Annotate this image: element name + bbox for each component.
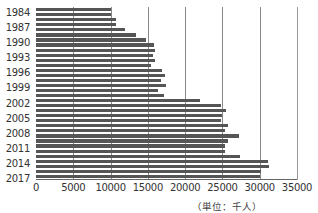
bar-2009 xyxy=(36,134,239,137)
bar-1984 xyxy=(36,8,111,11)
y-tick-2014: 2014 xyxy=(0,159,30,169)
bar-1998 xyxy=(36,79,161,82)
bar-2006 xyxy=(36,119,221,122)
bar-2016 xyxy=(36,170,261,173)
gridline-30000 xyxy=(260,7,261,180)
bar-2015 xyxy=(36,165,269,168)
bar-2000 xyxy=(36,89,158,92)
bar-2008 xyxy=(36,129,225,132)
bar-1993 xyxy=(36,54,153,57)
bar-1992 xyxy=(36,49,155,52)
x-axis-line xyxy=(36,179,297,180)
bar-1989 xyxy=(36,33,136,36)
x-tick-20000: 20000 xyxy=(170,183,200,193)
bar-2011 xyxy=(36,144,225,147)
bar-1985 xyxy=(36,13,111,16)
x-tick-0: 0 xyxy=(33,183,39,193)
bar-2010 xyxy=(36,139,228,142)
bar-2012 xyxy=(36,150,225,153)
x-tick-5000: 5000 xyxy=(61,183,85,193)
bar-2017 xyxy=(36,175,260,178)
bar-1987 xyxy=(36,23,116,26)
y-tick-2005: 2005 xyxy=(0,114,30,124)
bar-2004 xyxy=(36,109,226,112)
bar-2013 xyxy=(36,155,240,158)
bar-2005 xyxy=(36,114,222,117)
bar-2002 xyxy=(36,99,200,102)
bar-1991 xyxy=(36,43,154,46)
bar-2007 xyxy=(36,124,228,127)
y-tick-1987: 1987 xyxy=(0,23,30,33)
bar-1996 xyxy=(36,69,162,72)
bar-1999 xyxy=(36,84,166,87)
y-tick-1990: 1990 xyxy=(0,38,30,48)
y-tick-2002: 2002 xyxy=(0,99,30,109)
y-tick-2011: 2011 xyxy=(0,144,30,154)
bar-1994 xyxy=(36,59,155,62)
y-tick-1996: 1996 xyxy=(0,68,30,78)
x-tick-25000: 25000 xyxy=(207,183,237,193)
bar-1990 xyxy=(36,38,146,41)
horizontal-bar-chart: 1984198719901993199619992002200520082011… xyxy=(0,0,318,213)
bar-1988 xyxy=(36,28,125,31)
y-tick-1993: 1993 xyxy=(0,53,30,63)
bar-2003 xyxy=(36,104,221,107)
bar-1997 xyxy=(36,74,165,77)
x-tick-15000: 15000 xyxy=(133,183,163,193)
x-tick-10000: 10000 xyxy=(95,183,125,193)
x-tick-35000: 35000 xyxy=(282,183,312,193)
bar-1986 xyxy=(36,18,116,21)
unit-note: （単位：千人） xyxy=(192,199,262,213)
bar-2014 xyxy=(36,160,268,163)
y-tick-1984: 1984 xyxy=(0,8,30,18)
bar-1995 xyxy=(36,64,151,67)
y-tick-1999: 1999 xyxy=(0,83,30,93)
gridline-35000 xyxy=(297,7,298,180)
bar-2001 xyxy=(36,94,164,97)
y-tick-2017: 2017 xyxy=(0,174,30,184)
y-tick-2008: 2008 xyxy=(0,129,30,139)
x-tick-30000: 30000 xyxy=(245,183,275,193)
